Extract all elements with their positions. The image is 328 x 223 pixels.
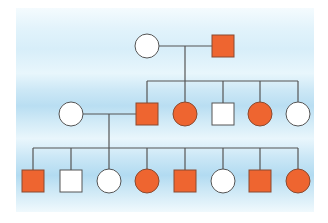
individuals	[22, 34, 310, 193]
affected-male-i-2	[212, 35, 234, 57]
affected-female-iii-8	[286, 169, 310, 193]
pedigree-diagram	[0, 0, 328, 223]
affected-male-iii-7	[249, 170, 271, 192]
unaffected-female-iii-3	[97, 169, 121, 193]
unaffected-male-iii-2	[60, 170, 82, 192]
unaffected-female-iii-6	[211, 169, 235, 193]
unaffected-female-i-1	[135, 34, 159, 58]
affected-male-ii-1	[136, 103, 158, 125]
affected-male-iii-5	[174, 170, 196, 192]
affected-female-ii-2	[173, 102, 197, 126]
unaffected-male-ii-3	[212, 103, 234, 125]
affected-female-ii-4	[248, 102, 272, 126]
affected-male-iii-1	[22, 170, 44, 192]
unaffected-female-ii-spouse	[59, 102, 83, 126]
affected-female-iii-4	[135, 169, 159, 193]
pedigree-canvas	[0, 0, 328, 223]
unaffected-female-ii-5	[286, 102, 310, 126]
